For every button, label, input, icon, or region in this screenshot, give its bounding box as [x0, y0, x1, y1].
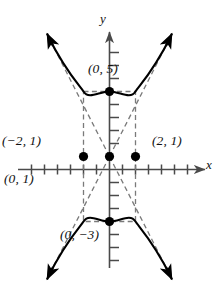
point-center: [105, 152, 114, 161]
x-axis-label: x: [206, 158, 212, 171]
y-axis-label: y: [100, 12, 106, 25]
point-covertex-right: [131, 152, 140, 161]
label-covertex-left: (−2, 1): [2, 134, 41, 148]
label-vertex-bottom: (0, −3): [60, 228, 99, 242]
label-covertex-right: (2, 1): [152, 134, 182, 148]
point-vertex-bottom: [105, 217, 114, 226]
hyperbola-figure: (0, 5) (−2, 1) (2, 1) (0, 1) (0, −3) y x: [0, 0, 223, 288]
label-vertex-top: (0, 5): [88, 62, 118, 76]
point-vertex-top: [105, 87, 114, 96]
label-center: (0, 1): [4, 172, 34, 186]
point-covertex-left: [79, 152, 88, 161]
